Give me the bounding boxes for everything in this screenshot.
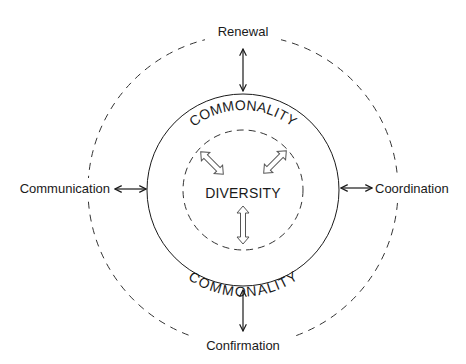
hollow-double-arrow-vertical-icon [237,206,249,244]
label-commonality-bottom: COMMONALITY [186,268,301,300]
label-diversity: DIVERSITY [205,185,281,201]
label-commonality-top: COMMONALITY [186,97,300,130]
label-coordination: Coordination [375,181,449,196]
commonality-diversity-diagram: Renewal Confirmation Communication Coord… [0,0,466,364]
label-confirmation: Confirmation [206,338,280,353]
hollow-double-arrow-upper-left-icon [196,147,227,178]
label-communication: Communication [20,181,110,196]
hollow-double-arrow-upper-right-icon [259,146,290,177]
label-renewal: Renewal [218,24,269,39]
